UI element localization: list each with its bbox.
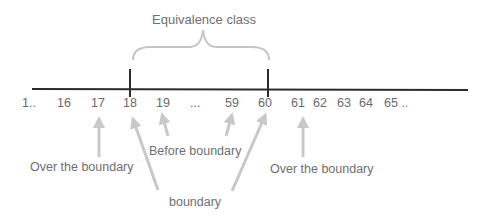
number-label: 17	[91, 96, 105, 110]
arrow-19	[163, 118, 168, 136]
number-line	[32, 89, 468, 90]
number-label: 60	[258, 96, 272, 110]
diagram-canvas	[0, 0, 487, 222]
number-label: ...	[190, 96, 200, 110]
before-boundary-label: Before boundary	[149, 144, 241, 158]
number-label: 1..	[22, 96, 36, 110]
number-label: 63	[337, 96, 351, 110]
equivalence-brace	[133, 30, 269, 60]
number-label: 64	[359, 96, 373, 110]
number-label: 16	[57, 96, 71, 110]
number-label: 59	[225, 96, 239, 110]
number-label: 65 ..	[384, 96, 408, 110]
boundary-label: boundary	[169, 195, 221, 209]
equivalence-class-label: Equivalence class	[152, 12, 256, 27]
number-label: 61	[291, 96, 305, 110]
over-boundary-left-label: Over the boundary	[30, 160, 134, 174]
number-label: 62	[313, 96, 327, 110]
over-boundary-right-label: Over the boundary	[270, 162, 374, 176]
number-label: 19	[156, 96, 170, 110]
arrow-59	[226, 118, 231, 136]
number-label: 18	[123, 96, 137, 110]
